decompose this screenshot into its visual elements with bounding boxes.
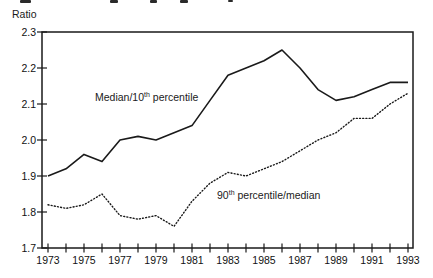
cropped-title-fragment [180,0,188,3]
series-line-median-over-10th [48,50,408,176]
series-label-text: Median/10 [95,91,144,103]
plot-frame [42,32,413,248]
x-tick-label: 1987 [288,254,312,266]
y-tick-label: 2.2 [21,62,36,74]
series-label-text: percentile/median [235,189,321,201]
x-tick-label: 1981 [180,254,204,266]
series-label-90th-over-median: 90th percentile/median [217,189,320,201]
x-tick-label: 1973 [36,254,60,266]
x-tick-label: 1979 [144,254,168,266]
series-label-text: 90 [217,189,229,201]
x-tick-label: 1977 [108,254,132,266]
x-tick-label: 1993 [396,254,420,266]
series-label-text: percentile [150,91,198,103]
x-tick-label: 1991 [360,254,384,266]
x-tick-label: 1985 [252,254,276,266]
series-line-90th-over-median [48,93,408,226]
cropped-title-fragment [150,0,157,3]
y-tick-label: 2.1 [21,98,36,110]
y-tick-label: 2.0 [21,134,36,146]
y-axis-caption: Ratio [12,8,37,20]
cropped-title-fragment [110,0,118,3]
cropped-title-fragment [228,0,233,2]
cropped-title-fragment [20,0,31,3]
y-tick-label: 1.9 [21,170,36,182]
x-tick-label: 1983 [216,254,240,266]
y-tick-label: 1.7 [21,242,36,254]
x-tick-label: 1975 [72,254,96,266]
y-tick-label: 1.8 [21,206,36,218]
series-label-median-over-10th: Median/10th percentile [95,91,198,103]
y-tick-label: 2.3 [21,26,36,38]
chart-canvas: 1.71.81.92.02.12.22.31973197519771979198… [0,0,433,278]
x-tick-label: 1989 [324,254,348,266]
